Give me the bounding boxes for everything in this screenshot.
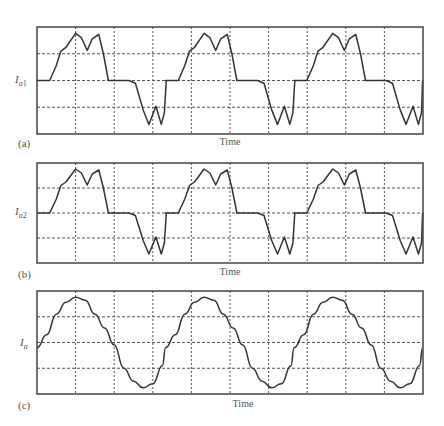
panel-b-ylabel: Ia2 — [15, 205, 27, 220]
panel-b-xlabel: Time — [200, 266, 260, 277]
panel-a-letter: (a) — [18, 137, 30, 149]
panel-c-xlabel: Time — [213, 398, 273, 409]
waveform-line — [37, 33, 423, 124]
figure-canvas — [0, 0, 444, 426]
panel-a-ylabel: Ia1 — [15, 73, 27, 88]
panel-b-plot — [37, 163, 423, 263]
panel-a-xlabel: Time — [200, 136, 260, 147]
panel-c-ylabel: Ia — [20, 336, 28, 351]
panel-c-plot — [37, 291, 423, 394]
panel-a-plot — [37, 27, 423, 134]
panel-b-letter: (b) — [18, 268, 31, 280]
panel-c-letter: (c) — [18, 399, 30, 411]
